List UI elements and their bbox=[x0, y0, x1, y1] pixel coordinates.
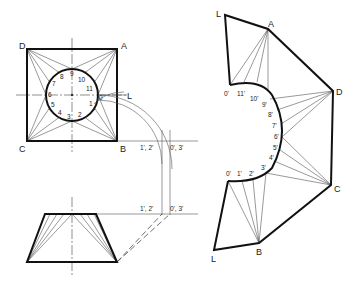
svg-text:1': 1' bbox=[237, 170, 242, 177]
svg-text:8: 8 bbox=[60, 73, 64, 80]
plan-label-d: D bbox=[19, 41, 26, 51]
svg-text:11: 11 bbox=[86, 85, 93, 92]
development-arc-point-labels: 0' 11' 10' 9' 8' 7' 6' 5' 4' 3' 2' 1' 0' bbox=[224, 90, 279, 177]
svg-text:8': 8' bbox=[268, 111, 273, 118]
dev-label-l-top: L bbox=[216, 9, 221, 19]
svg-text:2: 2 bbox=[78, 111, 82, 118]
plan-proj-label-12: 1', 2' bbox=[140, 144, 153, 151]
transition-piece-drawing: D A C B 0 1 2 3 4 5 6 7 8 9 10 11 L bbox=[0, 0, 360, 287]
svg-text:0': 0' bbox=[226, 170, 231, 177]
dev-label-a: A bbox=[268, 19, 274, 29]
svg-text:7': 7' bbox=[272, 122, 277, 129]
plan-label-b: B bbox=[120, 144, 126, 154]
svg-text:3: 3 bbox=[67, 113, 71, 120]
svg-text:9: 9 bbox=[70, 70, 74, 77]
svg-text:2': 2' bbox=[249, 170, 254, 177]
svg-text:7: 7 bbox=[52, 80, 56, 87]
svg-text:6': 6' bbox=[274, 133, 279, 140]
elev-proj-label-12: 1', 2' bbox=[140, 205, 153, 212]
svg-text:5: 5 bbox=[51, 101, 55, 108]
dev-label-d: D bbox=[336, 87, 343, 97]
elev-proj-label-03: 0', 3' bbox=[170, 205, 183, 212]
svg-text:4: 4 bbox=[58, 109, 62, 116]
swing-arc-outer bbox=[98, 95, 172, 169]
swing-arc-inner bbox=[98, 100, 162, 164]
plan-label-l: L bbox=[127, 91, 132, 101]
svg-text:4': 4' bbox=[269, 154, 274, 161]
svg-text:1: 1 bbox=[89, 100, 93, 107]
dev-label-l-bottom: L bbox=[211, 254, 216, 264]
plan-center-point bbox=[71, 94, 73, 96]
true-length-construction: 1', 2' 0', 3' 1', 2' 0', 3' bbox=[94, 92, 198, 262]
svg-text:6: 6 bbox=[48, 91, 52, 98]
svg-text:5': 5' bbox=[273, 144, 278, 151]
svg-text:3': 3' bbox=[261, 164, 266, 171]
elevation-view bbox=[27, 197, 117, 277]
svg-text:9': 9' bbox=[262, 101, 267, 108]
development-pattern: L A D C B L 0' 11' 10' 9' 8' 7' 6' 5' 4'… bbox=[211, 9, 343, 264]
true-length-line-2 bbox=[117, 214, 170, 262]
svg-text:11': 11' bbox=[237, 90, 245, 97]
svg-text:10: 10 bbox=[78, 76, 86, 83]
svg-text:0': 0' bbox=[224, 90, 229, 97]
dev-label-c: C bbox=[334, 184, 341, 194]
true-length-line-1 bbox=[117, 214, 162, 262]
svg-text:10': 10' bbox=[250, 95, 258, 102]
dev-label-b: B bbox=[256, 247, 262, 257]
plan-view: D A C B 0 1 2 3 4 5 6 7 8 9 10 11 L bbox=[16, 38, 132, 154]
plan-label-a: A bbox=[121, 41, 127, 51]
plan-label-c: C bbox=[19, 144, 26, 154]
development-triangulation-lines bbox=[228, 29, 333, 243]
plan-proj-label-03: 0', 3' bbox=[170, 144, 183, 151]
